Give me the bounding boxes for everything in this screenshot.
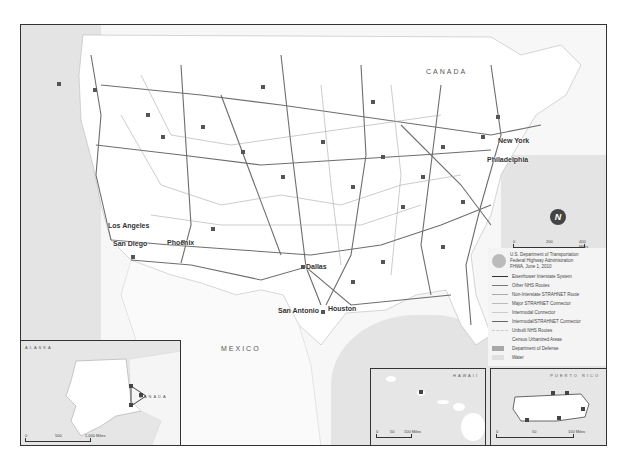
city-san-antonio: San Antonio [278,307,319,314]
dot-logo-icon [492,254,506,268]
map-legend: U.S. Department of Transportation Federa… [488,248,606,366]
city-los-angeles: Los Angeles [108,222,149,229]
puerto-rico-inset: PUERTO RICO 0 50 100 Miles [490,368,607,446]
mexico-label: MEXICO [221,345,261,352]
hawaii-inset: HAWAII 0 50 100 Miles [370,368,486,446]
alaska-inset: ALASKA CANADA 0 500 1,000 Miles [20,340,181,446]
city-phoenix: Phoenix [167,239,194,246]
legend-item-intermodal-strahnet: Intermodal/STRAHNET Connector [492,317,581,326]
alaska-canada-label: CANADA [139,394,168,399]
legend-item-dod: Department of Defense [492,344,581,353]
canada-label: CANADA [426,68,467,75]
city-houston: Houston [328,305,356,312]
city-san-diego: San Diego [113,240,147,247]
legend-item-other-nhs: Other NHS Routes [492,281,581,290]
legend-item-unbuilt-nhs: Unbuilt NHS Routes [492,326,581,335]
hawaii-scale-bar: 0 50 100 Miles [376,429,426,439]
legend-item-intermodal-connector: Intermodal Connector [492,308,581,317]
agency-credit: U.S. Department of Transportation Federa… [510,252,579,270]
legend-item-strahnet-connector: Major STRAHNET Connector [492,299,581,308]
puerto-rico-scale-bar: 0 50 100 Miles [496,429,596,439]
legend-item-interstate: Eisenhower Interstate System [492,272,581,281]
legend-item-urbanized-areas: Census Urbanized Areas [492,335,581,344]
city-philadelphia: Philadelphia [487,156,528,163]
alaska-scale-bar: 0 500 1,000 Miles [25,433,115,443]
city-new-york: New York [498,137,529,144]
north-arrow-icon: N [550,209,566,225]
city-dallas: Dallas [306,263,327,270]
legend-item-strahnet-route: Non-Interstate STRAHNET Route [492,290,581,299]
legend-item-water: Water [492,353,581,362]
legend-items: Eisenhower Interstate System Other NHS R… [492,272,581,362]
